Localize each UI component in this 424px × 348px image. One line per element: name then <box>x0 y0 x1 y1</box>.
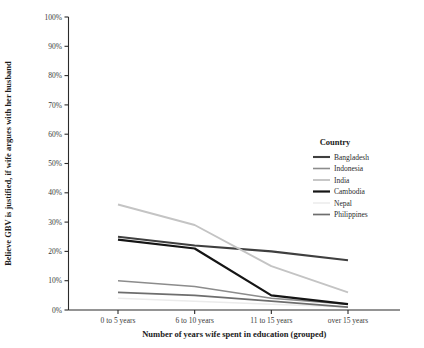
series-lines-group <box>118 205 348 308</box>
legend-label-indonesia: Indonesia <box>334 164 364 173</box>
x-tick-label: 0 to 5 years <box>101 316 136 325</box>
y-tick-label: 80% <box>48 71 62 80</box>
legend-label-bangladesh: Bangladesh <box>334 153 369 162</box>
x-axis-ticks: 0 to 5 years6 to 10 years11 to 15 yearso… <box>101 310 369 325</box>
legend-title: Country <box>320 137 351 147</box>
y-axis-title: Believe GBV is justified, if wife argues… <box>3 61 13 266</box>
y-tick-label: 90% <box>48 42 62 51</box>
y-axis-group: 0%10%20%30%40%50%60%70%80%90%100% <box>45 13 69 315</box>
y-tick-label: 30% <box>48 218 62 227</box>
x-tick-label: 11 to 15 years <box>250 316 292 325</box>
legend-label-india: India <box>334 176 350 185</box>
line-chart-figure: 0%10%20%30%40%50%60%70%80%90%100% 0 to 5… <box>0 0 424 348</box>
legend-label-philippines: Philippines <box>334 210 368 219</box>
y-tick-label: 70% <box>48 101 62 110</box>
chart-canvas: 0%10%20%30%40%50%60%70%80%90%100% 0 to 5… <box>0 0 424 348</box>
legend: Country BangladeshIndonesiaIndiaCambodia… <box>313 137 369 219</box>
y-tick-label: 10% <box>48 276 62 285</box>
x-tick-label: over 15 years <box>328 316 368 325</box>
y-tick-label: 50% <box>48 159 62 168</box>
legend-entries: BangladeshIndonesiaIndiaCambodiaNepalPhi… <box>313 153 369 220</box>
y-tick-label: 40% <box>48 188 62 197</box>
y-tick-label: 60% <box>48 130 62 139</box>
legend-label-nepal: Nepal <box>334 199 352 208</box>
x-tick-label: 6 to 10 years <box>175 316 214 325</box>
x-axis-group: 0 to 5 years6 to 10 years11 to 15 yearso… <box>69 310 401 325</box>
x-axis-title: Number of years wife spent in education … <box>142 329 326 339</box>
series-line-bangladesh <box>118 237 348 260</box>
y-axis-ticks: 0%10%20%30%40%50%60%70%80%90%100% <box>45 13 69 315</box>
y-tick-label: 0% <box>52 306 62 315</box>
y-tick-label: 20% <box>48 247 62 256</box>
y-tick-label: 100% <box>45 13 63 22</box>
legend-label-cambodia: Cambodia <box>334 187 365 196</box>
